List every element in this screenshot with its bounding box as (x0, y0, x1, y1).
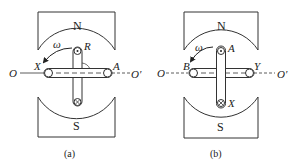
left-end-label: X (33, 60, 42, 72)
top-label: A (227, 42, 235, 54)
left-end-circle (45, 69, 53, 77)
rotation-arrow-icon (44, 48, 72, 62)
caption-b: (b) (210, 148, 222, 160)
left-end-label: B (183, 60, 190, 72)
panel-b: N S O O′ ω B Y A X (b) (157, 12, 288, 160)
left-end-circle (190, 69, 198, 77)
bottom-label: X (227, 97, 236, 109)
coil-side-vertical (217, 46, 226, 108)
top-label: R (83, 40, 91, 52)
right-end-circle (104, 69, 112, 77)
omega-label: ω (195, 41, 203, 53)
coil-side-horizontal (44, 69, 112, 78)
right-end-label: A (112, 60, 120, 72)
caption-a: (a) (64, 148, 75, 160)
right-end-circle (246, 69, 254, 77)
north-pole-label: N (73, 19, 82, 33)
right-end-label: Y (254, 60, 262, 72)
panel-a: N S O O′ ω X A R (a) (9, 12, 142, 160)
generator-coil-diagram: N S O O′ ω X A R (a) N S (0, 0, 303, 165)
south-pole-label: S (217, 120, 224, 134)
north-pole-label: N (217, 19, 226, 33)
axis-right-label: O′ (131, 68, 142, 80)
axis-left-label: O (9, 67, 17, 79)
axis-right-label: O′ (277, 68, 288, 80)
axis-left-label: O (157, 67, 165, 79)
south-pole-label: S (73, 119, 80, 133)
omega-label: ω (53, 38, 61, 50)
